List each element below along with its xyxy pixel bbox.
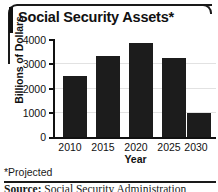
bars-layer <box>55 39 216 137</box>
source-text: Social Security Administration <box>41 183 186 192</box>
source-credit: Source: Social Security Administration <box>4 183 186 192</box>
y-axis-tick-labels: 4000 3000 2000 1000 0 <box>12 0 46 192</box>
bar-2020 <box>129 43 153 137</box>
bar-2015 <box>96 56 120 137</box>
y-tick-label-4000: 4000 <box>12 35 46 46</box>
source-label: Source: <box>4 183 41 192</box>
y-tick-label-0: 0 <box>12 132 46 143</box>
bar-2010 <box>63 76 87 137</box>
x-tick-label-2030: 2030 <box>176 141 216 153</box>
x-axis-line <box>53 137 216 139</box>
bar-2025 <box>162 58 186 137</box>
footnote-projected: *Projected <box>4 166 52 178</box>
y-tick-label-3000: 3000 <box>12 59 46 70</box>
chart-screenshot: Social Security Assets* Billions of Doll… <box>0 0 218 192</box>
x-axis-title: Year <box>55 153 216 165</box>
plot-area: Billions of Dollars 4000 3000 2000 1000 … <box>0 0 218 192</box>
y-tick-label-1000: 1000 <box>12 108 46 119</box>
bar-2030 <box>187 113 211 138</box>
y-tick-label-2000: 2000 <box>12 84 46 95</box>
